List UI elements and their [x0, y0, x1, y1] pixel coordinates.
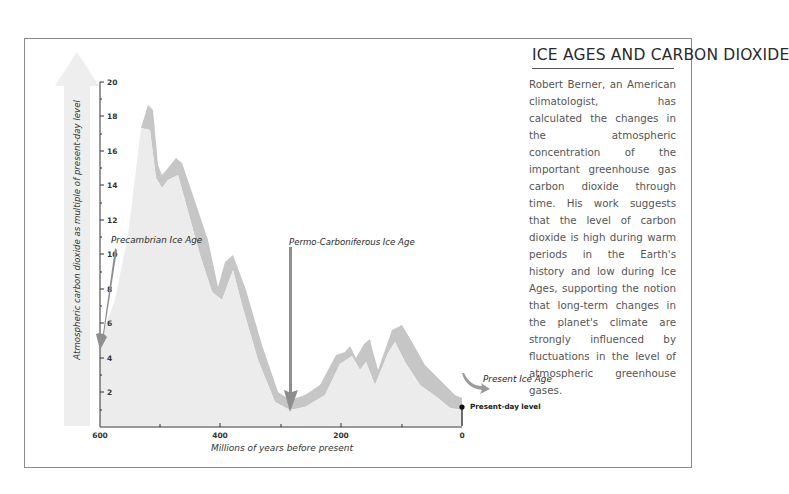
y-axis-label: Atmospheric carbon dioxide as multiple o… [72, 100, 82, 361]
description-paragraph: Robert Berner, an American climatologist… [529, 76, 676, 399]
x-axis-label: Millions of years before present [211, 443, 354, 453]
svg-text:0: 0 [459, 431, 464, 440]
svg-text:6: 6 [107, 319, 112, 328]
svg-text:600: 600 [92, 431, 108, 440]
svg-text:4: 4 [107, 354, 112, 363]
precambrian-label: Precambrian Ice Age [111, 235, 203, 245]
permo-label: Permo-Carboniferous Ice Age [289, 237, 415, 247]
svg-text:18: 18 [107, 112, 117, 121]
title-divider [532, 68, 674, 69]
svg-text:16: 16 [107, 147, 117, 156]
permo-arrow-icon [284, 247, 298, 412]
svg-text:12: 12 [107, 216, 117, 225]
svg-text:200: 200 [333, 431, 349, 440]
present-level-dot-icon [459, 404, 464, 409]
svg-text:20: 20 [107, 78, 117, 87]
x-tick-labels: 600 400 200 0 [92, 431, 464, 440]
svg-text:2: 2 [107, 388, 112, 397]
co2-area [100, 128, 462, 426]
svg-text:14: 14 [107, 181, 117, 190]
svg-text:400: 400 [212, 431, 228, 440]
page-title: ICE AGES AND CARBON DIOXIDE [532, 46, 789, 64]
present-level-label: Present-day level [470, 402, 541, 411]
